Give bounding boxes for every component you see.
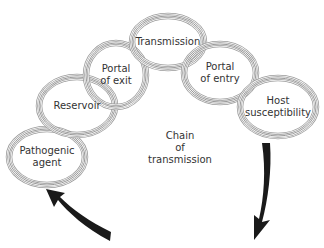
- link-label-line: Host: [245, 95, 311, 107]
- link-label-line: of exit: [100, 75, 131, 87]
- center-label-line-3: transmission: [148, 154, 212, 166]
- center-label: Chain of transmission: [148, 130, 212, 166]
- link-label-line: Reservoir: [53, 100, 100, 112]
- link-label-line: agent: [19, 157, 74, 169]
- link-label-portal-of-exit: Portalof exit: [100, 63, 131, 87]
- link-label-line: susceptibility: [245, 107, 311, 119]
- link-label-line: Pathogenic: [19, 145, 74, 157]
- link-label-portal-of-entry: Portalof entry: [200, 61, 239, 85]
- link-label-transmission: Transmission: [136, 36, 201, 48]
- link-label-reservoir: Reservoir: [53, 100, 100, 112]
- link-label-pathogenic-agent: Pathogenicagent: [19, 145, 74, 169]
- link-label-line: Transmission: [136, 36, 201, 48]
- center-label-line-2: of: [148, 142, 212, 154]
- link-label-host-susceptibility: Hostsusceptibility: [245, 95, 311, 119]
- link-label-line: of entry: [200, 73, 239, 85]
- link-label-line: Portal: [100, 63, 131, 75]
- arrow-host-to-bottom-icon: [254, 143, 271, 240]
- link-label-line: Portal: [200, 61, 239, 73]
- center-label-line-1: Chain: [148, 130, 212, 142]
- arrow-bottom-to-pathogen-icon: [46, 189, 111, 241]
